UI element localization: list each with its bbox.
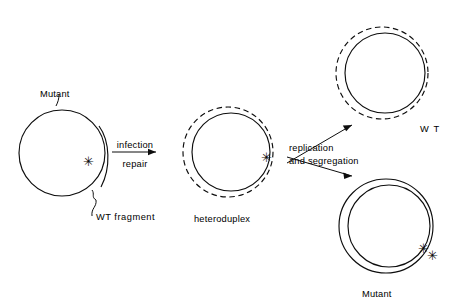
wt-outer-dashed-circle [336,27,428,119]
stage-mutant-product: ✳ ✳ [339,179,438,273]
label-mutant-left: Mutant [40,83,70,101]
label-wt-right: W T [420,118,440,136]
label-and-segregation: and segregation [289,150,359,168]
mismatch-marker: ✳ [427,248,438,263]
stage-wt-product [336,27,428,119]
label-wt-fragment: WT fragment [96,206,155,224]
wt-inner-solid-circle [345,33,425,113]
label-repair: repair [113,153,157,171]
replication-up-arrow-head [343,125,352,131]
wt-fragment-pointer-upper [92,190,96,200]
label-heteroduplex: heteroduplex [194,208,250,226]
mutant-product-outer-circle [339,179,433,273]
wt-fragment-arc [99,126,108,187]
label-infection: infection [113,134,157,152]
diagram-canvas: ✳ ✳ ✳ ✳ [0,0,453,305]
mismatch-marker: ✳ [83,154,94,169]
label-mutant-right: Mutant [362,283,392,301]
stage-heteroduplex: ✳ [183,107,273,197]
heteroduplex-inner-solid-circle [192,113,270,191]
stage-mutant-genome: ✳ [19,94,108,216]
genetics-diagram: ✳ ✳ ✳ ✳ [0,0,453,305]
mutant-genome-circle [19,110,105,196]
replication-down-arrow-head [343,173,352,180]
heteroduplex-outer-dashed-circle [183,107,273,197]
mismatch-marker: ✳ [261,150,272,165]
